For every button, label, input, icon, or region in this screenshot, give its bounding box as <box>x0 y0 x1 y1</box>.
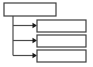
child-node-box-3 <box>37 50 86 62</box>
arrowhead-icon <box>33 53 38 58</box>
flowchart-diagram <box>0 0 93 67</box>
parent-node-box <box>4 3 56 16</box>
child-node-box-2 <box>37 35 86 47</box>
arrowhead-icon <box>33 23 38 28</box>
diagram-svg <box>0 0 93 67</box>
child-node-box-1 <box>37 20 86 32</box>
arrowhead-icon <box>33 38 38 43</box>
